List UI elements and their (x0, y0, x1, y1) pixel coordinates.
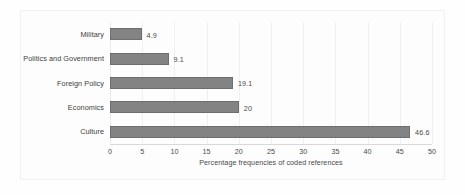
bar-row: 19.1 (110, 71, 432, 95)
bar[interactable] (110, 77, 233, 89)
bar[interactable] (110, 53, 169, 65)
x-tick-label: 5 (140, 147, 144, 156)
x-tick-label: 35 (331, 147, 339, 156)
bar-value-label: 9.1 (174, 55, 184, 64)
bar-value-label: 19.1 (238, 79, 252, 88)
bar-row: 46.6 (110, 120, 432, 144)
category-label: Economics (0, 103, 104, 112)
bar-value-label: 4.9 (147, 31, 157, 40)
category-axis-labels: MilitaryPolitics and GovernmentForeign P… (0, 22, 104, 144)
bar[interactable] (110, 126, 410, 138)
bar[interactable] (110, 28, 142, 40)
category-label: Foreign Policy (0, 79, 104, 88)
gridline (432, 22, 433, 144)
plot-area: 4.99.119.12046.6 (110, 22, 432, 144)
category-label: Politics and Government (0, 54, 104, 63)
x-tick-label: 10 (170, 147, 178, 156)
bar-value-label: 46.6 (415, 128, 429, 137)
x-axis-title: Percentage frequencies of coded referenc… (110, 158, 432, 167)
x-axis-line (110, 144, 432, 145)
bars-layer: 4.99.119.12046.6 (110, 22, 432, 144)
x-tick-label: 50 (428, 147, 436, 156)
bar-value-label: 20 (244, 104, 252, 113)
x-tick-label: 40 (364, 147, 372, 156)
category-label: Military (0, 30, 104, 39)
bar-chart: 4.99.119.12046.6 MilitaryPolitics and Go… (0, 0, 465, 195)
bar-row: 9.1 (110, 46, 432, 70)
bar[interactable] (110, 101, 239, 113)
x-tick-label: 20 (235, 147, 243, 156)
x-tick-label: 45 (396, 147, 404, 156)
bar-row: 4.9 (110, 22, 432, 46)
x-tick-label: 30 (299, 147, 307, 156)
x-tick-label: 25 (267, 147, 275, 156)
category-label: Culture (0, 127, 104, 136)
x-tick-label: 15 (203, 147, 211, 156)
x-tick-label: 0 (108, 147, 112, 156)
bar-row: 20 (110, 95, 432, 119)
